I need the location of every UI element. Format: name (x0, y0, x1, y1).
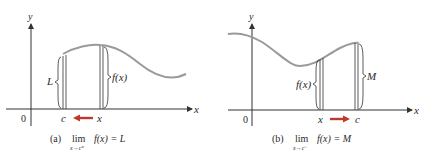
bracket-fx-icon-b (313, 60, 319, 109)
caption-lim-b: lim (295, 133, 309, 144)
caption-sub-b: x→c⁻ (292, 145, 308, 151)
caption-tag-a: (a) (50, 133, 61, 145)
approach-arrow-left-icon (73, 115, 93, 122)
point-label-c-a: c (61, 112, 66, 124)
bracket-label-L: L (46, 75, 53, 87)
point-label-c-b: c (355, 113, 360, 125)
caption-tag-b: (b) (272, 133, 284, 145)
bracket-M-icon (359, 44, 366, 109)
point-label-x-b: x (317, 113, 323, 125)
origin-label-b: 0 (243, 114, 248, 125)
caption-expr-b: f(x) = M (317, 133, 352, 145)
approach-arrow-right-icon (330, 116, 350, 123)
diagram-canvas: y x 0 L f(x) c x (a) lim x→c⁺ f(x) = L y (0, 0, 425, 158)
caption-sub-a: x→c⁺ (69, 145, 85, 151)
x-axis-label-b: x (413, 104, 419, 116)
bracket-L-icon (55, 57, 61, 108)
y-axis-label-a: y (27, 11, 33, 22)
point-label-x-a: x (96, 112, 102, 124)
bracket-label-fx-a: f(x) (112, 71, 128, 84)
caption-expr-a: f(x) = L (94, 133, 126, 145)
y-axis-label-b: y (248, 11, 254, 22)
bracket-label-M: M (366, 70, 377, 82)
panel-b: y x 0 f(x) M x c (b) lim x→c⁻ f(x) = M (228, 11, 419, 151)
x-axis-label-a: x (193, 103, 199, 115)
origin-label-a: 0 (21, 113, 26, 124)
caption-lim-a: lim (72, 133, 86, 144)
panel-a: y x 0 L f(x) c x (a) lim x→c⁺ f(x) = L (6, 11, 199, 151)
bracket-label-fx-b: f(x) (296, 78, 312, 91)
bracket-fx-icon-a (104, 47, 111, 108)
function-curve-b (228, 33, 358, 66)
